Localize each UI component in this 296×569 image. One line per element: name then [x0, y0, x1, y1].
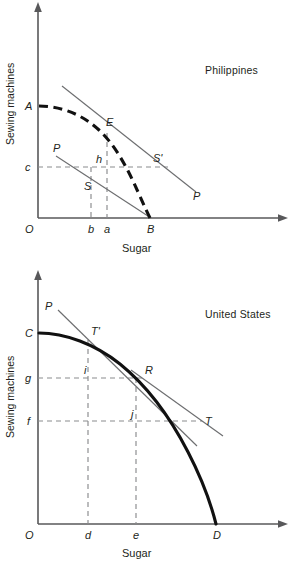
country-label-united-states: United States — [205, 308, 271, 320]
y-axis-arrow-icon — [34, 270, 42, 280]
united-states-chart-svg: C P T' R T i j g f d e D O Sugar Sewing … — [0, 260, 296, 569]
labels-philippines: A E S S' h B b a c P P O Sugar Sewing ma… — [4, 63, 258, 254]
ppf-curve-AB — [39, 106, 150, 218]
label-point-T: T — [205, 415, 213, 427]
price-lines-philippines — [56, 86, 196, 218]
label-point-h: h — [96, 153, 102, 165]
label-tick-a: a — [104, 223, 110, 235]
label-tick-D: D — [213, 529, 221, 541]
economics-figure: A E S S' h B b a c P P O Sugar Sewing ma… — [0, 0, 296, 569]
country-label-philippines: Philippines — [205, 64, 258, 76]
x-axis-arrow-icon — [278, 520, 288, 528]
label-point-A: A — [24, 100, 32, 112]
label-point-S-prime: S' — [153, 152, 163, 164]
label-origin-O: O — [25, 223, 34, 235]
y-axis-title: Sewing machines — [4, 356, 16, 438]
philippines-chart-svg: A E S S' h B b a c P P O Sugar Sewing ma… — [0, 0, 296, 260]
ppf-curve-CD — [39, 333, 216, 524]
label-point-C: C — [25, 327, 33, 339]
label-point-j: j — [129, 408, 134, 420]
label-tick-e: e — [133, 529, 139, 541]
x-axis-title: Sugar — [122, 547, 152, 559]
label-tick-g: g — [25, 372, 32, 384]
labels-united-states: C P T' R T i j g f d e D O Sugar Sewing … — [4, 300, 271, 559]
x-axis-title: Sugar — [122, 242, 152, 254]
label-tick-f: f — [27, 415, 31, 427]
y-axis-title: Sewing machines — [4, 63, 16, 145]
label-point-i: i — [84, 364, 87, 376]
x-axis-arrow-icon — [278, 214, 288, 222]
chart-panel-philippines: A E S S' h B b a c P P O Sugar Sewing ma… — [0, 0, 296, 260]
label-point-E: E — [106, 116, 114, 128]
y-axis-arrow-icon — [34, 2, 42, 12]
label-tick-b: b — [88, 223, 94, 235]
label-tick-d: d — [85, 529, 92, 541]
label-price-line-P-left: P — [53, 142, 61, 154]
label-price-line-P-right: P — [193, 190, 201, 202]
label-point-R: R — [145, 364, 153, 376]
chart-panel-united-states: C P T' R T i j g f d e D O Sugar Sewing … — [0, 260, 296, 569]
label-point-T-prime: T' — [91, 325, 101, 337]
label-origin-O: O — [25, 529, 34, 541]
label-price-line-P: P — [45, 300, 53, 312]
label-point-S: S — [84, 180, 92, 192]
label-tick-B: B — [147, 223, 154, 235]
label-tick-c: c — [25, 161, 31, 173]
